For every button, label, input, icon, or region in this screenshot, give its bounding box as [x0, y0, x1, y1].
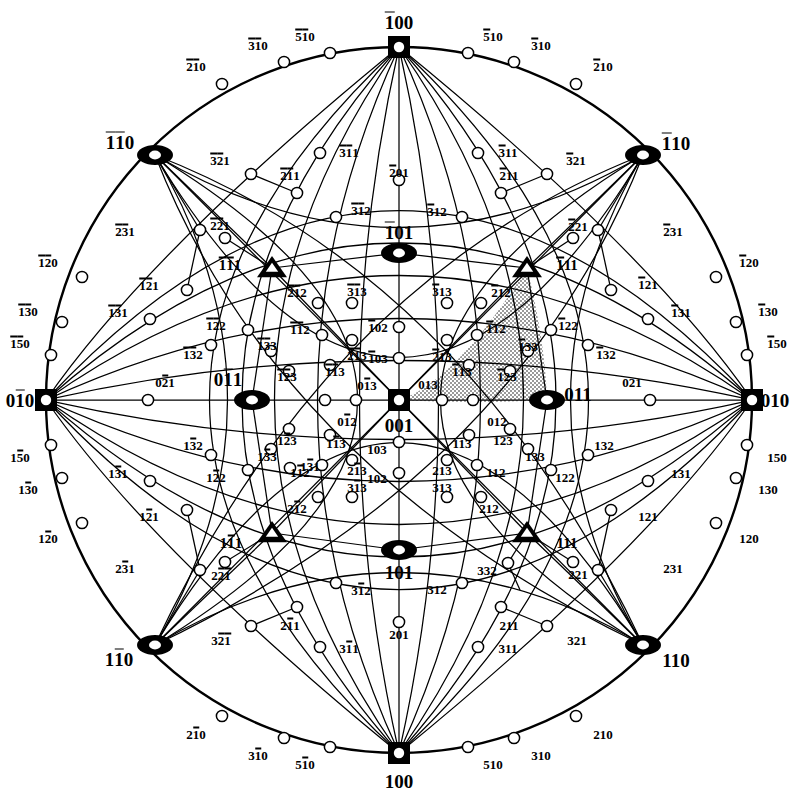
pole-marker-p_110_ul	[137, 145, 173, 165]
pole-marker-q_122ll	[242, 464, 253, 475]
pole-label-q_121lr: 121	[638, 510, 658, 523]
pole-label-q_123lr: 123	[493, 434, 513, 447]
pole-marker-z_021l	[142, 394, 153, 405]
pole-marker-q_313ur	[441, 297, 452, 308]
pole-label-q_212lr: 212	[479, 502, 499, 515]
pole-marker-q_131ur	[642, 313, 653, 324]
pole-marker-q_211ul	[291, 187, 302, 198]
pole-label-q_133ul: 133	[257, 339, 277, 352]
pole-label-q_122ul: 122	[206, 319, 226, 332]
pole-label-q_321ul: 321	[210, 154, 230, 167]
pole-marker-w_211lr	[495, 601, 506, 612]
pole-label-p_110_ll: 110	[105, 650, 134, 669]
pole-label-r_510u_l: 510	[295, 30, 315, 43]
pole-label-e_010: 010	[761, 391, 790, 410]
pole-marker-q_121ll	[181, 504, 192, 515]
pole-label-q_131lr: 131	[671, 467, 691, 480]
pole-label-q_132lr: 132	[594, 439, 614, 452]
pole-label-r_150ul: 150	[10, 337, 30, 350]
pole-marker-w_332lr	[502, 557, 513, 568]
pole-marker-q_231ll	[194, 564, 205, 575]
pole-marker-p_011_l	[234, 390, 270, 410]
pole-label-p_011_l: 011	[214, 370, 243, 389]
pole-label-z_021l: 021	[155, 376, 175, 389]
pole-marker-q_132ur	[582, 339, 593, 350]
pole-marker-q_121lr	[605, 504, 616, 515]
pole-label-r_210u_l: 210	[186, 60, 206, 73]
pole-marker-z_013r	[436, 394, 447, 405]
pole-label-z_012l: 012	[337, 415, 357, 428]
pole-label-q_122lr: 122	[555, 471, 575, 484]
pole-marker-w_321ll	[245, 620, 256, 631]
pole-label-w_332lr: 332	[477, 564, 497, 577]
pole-label-q_113ul: 113	[325, 365, 345, 378]
pole-marker-q_211ur	[495, 187, 506, 198]
pole-label-q_213lr: 213	[432, 464, 452, 477]
pole-label-r_210d_r: 210	[593, 728, 613, 741]
pole-label-q_121ur: 121	[638, 278, 658, 291]
pole-label-w_311lr: 311	[499, 642, 518, 655]
pole-label-r_210d_l: 210	[186, 728, 206, 741]
pole-marker-q_122ur	[545, 324, 556, 335]
pole-label-q_121ul: 121	[139, 279, 159, 292]
pole-label-r_150ll: 150	[10, 451, 30, 464]
pole-label-r_120ur: 120	[739, 256, 759, 269]
pole-label-w_321lr: 321	[567, 634, 587, 647]
pole-marker-q_312ur	[456, 211, 467, 222]
pole-marker-r_150ur	[741, 349, 752, 360]
pole-label-z_103u: 103	[368, 352, 388, 365]
pole-marker-r_120ur	[710, 271, 721, 282]
pole-label-r_130ul: 130	[18, 305, 38, 318]
pole-marker-n_100	[388, 36, 410, 58]
pole-marker-r_210u_l	[216, 78, 227, 89]
pole-marker-s_100	[388, 742, 410, 764]
pole-label-q_131ur: 131	[671, 306, 691, 319]
pole-label-w_211ll: 211	[280, 619, 300, 632]
pole-label-c_001: 001	[385, 416, 414, 435]
pole-label-q_212ur: 212	[491, 286, 511, 299]
pole-label-z_201d: 201	[389, 628, 409, 641]
pole-marker-q_321ul	[245, 168, 256, 179]
pole-label-r_510u_r: 510	[483, 30, 503, 43]
pole-marker-p_110_ll	[137, 635, 173, 655]
pole-label-z_012r: 012	[487, 415, 507, 428]
pole-label-s_100: 100	[385, 772, 414, 791]
pole-label-q_132ll: 132	[183, 439, 203, 452]
stereographic-projection-figure: 1001000100100011101101101101011010110111…	[0, 0, 798, 803]
pole-label-n_100: 100	[385, 13, 414, 32]
pole-marker-w_312ll	[330, 577, 341, 588]
pole-label-q_133ll: 133	[257, 450, 277, 463]
pole-marker-r_310u_r	[508, 56, 519, 67]
pole-label-q_133ur: 133	[518, 340, 538, 353]
pole-marker-z_021r	[644, 394, 655, 405]
pole-marker-q_122ul	[242, 324, 253, 335]
pole-marker-r_120ul	[76, 271, 87, 282]
pole-marker-q_221ul	[219, 232, 230, 243]
pole-marker-p_011_r	[529, 390, 565, 410]
pole-label-z_103d: 103	[367, 443, 387, 456]
pole-label-q_211ul: 211	[280, 169, 300, 182]
pole-label-p_101_u: 101	[385, 223, 414, 242]
pole-marker-q_121ul	[181, 284, 192, 295]
pole-label-z_013l: 013	[357, 379, 377, 392]
pole-marker-q_313ul	[346, 297, 357, 308]
pole-label-q_231ul: 231	[115, 225, 135, 238]
pole-marker-q_312ul	[330, 211, 341, 222]
pole-label-p_011_r: 011	[564, 385, 591, 404]
pole-marker-q_212ll	[312, 491, 323, 502]
pole-label-q_213ul: 213	[347, 349, 367, 362]
pole-marker-p_101_d	[381, 540, 417, 560]
pole-label-z_013r: 013	[418, 378, 438, 391]
pole-marker-q_221ur	[567, 232, 578, 243]
pole-label-q_213ur: 213	[432, 350, 452, 363]
pole-label-w_221lr: 221	[568, 568, 588, 581]
pole-label-q_231ll: 231	[115, 562, 135, 575]
pole-label-p_111_ll: 111	[220, 536, 243, 551]
pole-marker-r_210d_r	[570, 710, 581, 721]
pole-marker-w_321lr	[541, 620, 552, 631]
pole-label-r_510d_r: 510	[483, 758, 503, 771]
pole-label-q_123ll: 123	[277, 434, 297, 447]
pole-label-r_130lr: 130	[758, 483, 778, 496]
pole-marker-p_101_u	[381, 243, 417, 263]
pole-marker-p_110_ur	[625, 145, 661, 165]
